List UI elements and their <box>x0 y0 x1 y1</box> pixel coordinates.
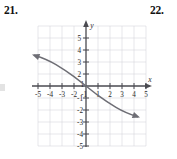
y-tick-label: -5 <box>77 143 83 151</box>
x-tick-label: -5 <box>35 91 41 99</box>
y-axis-label: y <box>89 21 94 30</box>
page-edge-artifact <box>0 84 5 91</box>
y-tick-label: 3 <box>77 59 81 67</box>
exercise-number-right: 22. <box>150 4 164 16</box>
x-tick-label: -4 <box>47 91 53 99</box>
x-axis-tick-labels: -5 -4 -3 -2 -1 1 2 3 4 5 <box>35 91 148 99</box>
x-tick-label: 5 <box>144 91 148 99</box>
curve-right-arrowhead <box>132 112 140 118</box>
y-tick-label: 4 <box>77 47 81 55</box>
y-tick-label: -1 <box>77 95 83 103</box>
x-tick-label: 4 <box>132 91 136 99</box>
y-tick-label: -4 <box>77 131 83 139</box>
exercise-figure-page: 21. 22. <box>0 0 177 159</box>
y-tick-label: 5 <box>77 35 81 43</box>
x-tick-label: 3 <box>120 91 124 99</box>
x-tick-label: -3 <box>59 91 65 99</box>
exercise-number-left: 21. <box>4 4 18 16</box>
y-axis-arrowhead <box>83 20 89 27</box>
curve-left-arrowhead <box>32 54 40 60</box>
x-axis-label: x <box>147 75 152 84</box>
y-tick-label: -2 <box>77 107 83 115</box>
y-tick-label: 2 <box>77 71 81 79</box>
y-tick-label: -3 <box>77 119 83 127</box>
coordinate-graph: -5 -4 -3 -2 -1 1 2 3 4 5 5 4 3 2 1 -1 -2… <box>26 20 154 152</box>
tick-marks <box>38 38 146 146</box>
x-tick-label: 2 <box>108 91 112 99</box>
